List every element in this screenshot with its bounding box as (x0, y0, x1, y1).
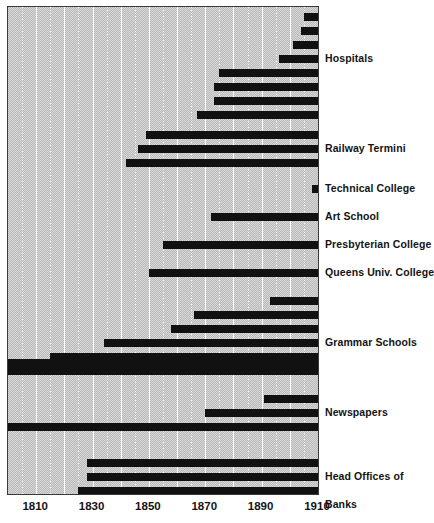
bar (211, 213, 318, 221)
gridline-1900 (290, 7, 291, 494)
bar (104, 339, 318, 347)
gridline-1865 (191, 7, 192, 494)
x-tick-label-1890: 1890 (248, 500, 274, 512)
gridline-1855 (163, 7, 164, 494)
x-tick-label-1830: 1830 (79, 500, 105, 512)
gridline-1805 (22, 7, 23, 494)
bar (171, 325, 318, 333)
bar (194, 311, 318, 319)
series-label-line: Technical College (325, 182, 415, 194)
bar (197, 111, 318, 119)
x-axis: 181018301850187018901910 (0, 498, 429, 522)
gridline-1890 (262, 7, 263, 494)
gridline-1825 (78, 7, 79, 494)
series-label-line: Queens Univ. College (325, 266, 434, 278)
series-label-presbyterian-college: Presbyterian College (325, 238, 431, 250)
series-label-line: Railway Termini (325, 142, 406, 154)
bar (219, 69, 318, 77)
x-tick-label-1850: 1850 (135, 500, 161, 512)
gridline-1885 (248, 7, 249, 494)
gridline-1820 (64, 7, 65, 494)
bar (270, 297, 318, 305)
bar (138, 145, 318, 153)
series-label-line: Art School (325, 210, 379, 222)
bar (264, 395, 318, 403)
gridline-1850 (149, 7, 150, 494)
bar (214, 97, 318, 105)
gridline-1845 (135, 7, 136, 494)
gridline-1875 (219, 7, 220, 494)
series-label-grammar-schools: Grammar Schools (325, 336, 417, 348)
bar (149, 269, 318, 277)
series-label-newspapers: Newspapers (325, 406, 388, 418)
gridline-1880 (233, 7, 234, 494)
bar (87, 459, 318, 467)
series-label-technical-college: Technical College (325, 182, 415, 194)
x-tick-label-1910: 1910 (304, 500, 330, 512)
gridline-1860 (177, 7, 178, 494)
bar (126, 159, 318, 167)
bar (312, 185, 318, 193)
bar (8, 367, 318, 375)
gridline-1910 (318, 7, 319, 494)
series-label-line: Newspapers (325, 406, 388, 418)
bar (304, 13, 318, 21)
bar (146, 131, 318, 139)
gridline-1815 (50, 7, 51, 494)
plot-area (7, 6, 319, 495)
series-label-railway-termini: Railway Termini (325, 142, 406, 154)
series-label-art-school: Art School (325, 210, 379, 222)
series-label-line: Head Offices of (325, 470, 404, 482)
bar (78, 487, 318, 495)
bar (87, 473, 318, 481)
group-separator-bar (8, 423, 318, 431)
series-label-line: Presbyterian College (325, 238, 431, 250)
x-tick-label-1810: 1810 (22, 500, 48, 512)
bar (205, 409, 318, 417)
gridline-1830 (93, 7, 94, 494)
bar (279, 55, 318, 63)
bar (293, 41, 318, 49)
gridline-1870 (205, 7, 206, 494)
gridline-1895 (276, 7, 277, 494)
bar (214, 83, 318, 91)
gridline-1905 (304, 7, 305, 494)
gridline-1840 (121, 7, 122, 494)
series-label-hospitals: Hospitals (325, 52, 373, 64)
gridline-1810 (36, 7, 37, 494)
series-label-line: Grammar Schools (325, 336, 417, 348)
series-label-line: Hospitals (325, 52, 373, 64)
bar (163, 241, 318, 249)
x-tick-label-1870: 1870 (191, 500, 217, 512)
series-label-queens-univ-college: Queens Univ. College (325, 266, 434, 278)
gridline-1835 (107, 7, 108, 494)
bar (301, 27, 318, 35)
group-separator-bar (8, 359, 318, 367)
